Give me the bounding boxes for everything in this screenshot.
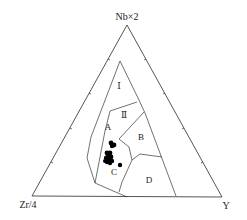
field-boundaries bbox=[87, 61, 176, 197]
field-labels: Ⅰ Ⅱ A B C D bbox=[105, 81, 153, 185]
field-label-D: D bbox=[146, 175, 153, 185]
field-label-I: Ⅰ bbox=[117, 81, 121, 91]
C-base-boundary bbox=[95, 183, 127, 197]
field-label-B: B bbox=[138, 132, 144, 142]
B-D-boundary bbox=[132, 154, 162, 160]
sample-points bbox=[103, 141, 122, 168]
C-D-boundary bbox=[119, 182, 122, 192]
vertex-label-left: Zr/4 bbox=[19, 199, 36, 210]
field-label-C: C bbox=[111, 167, 117, 177]
vertex-label-top: Nb×2 bbox=[116, 11, 139, 22]
field-label-A: A bbox=[105, 122, 112, 132]
inner-left-boundary bbox=[87, 61, 120, 183]
ternary-diagram: Ⅰ Ⅱ A B C D Nb×2 Zr/4 Y bbox=[0, 0, 247, 220]
B-C-boundary bbox=[119, 139, 132, 182]
field-label-II: Ⅱ bbox=[121, 110, 127, 120]
vertex-label-right: Y bbox=[222, 200, 229, 211]
